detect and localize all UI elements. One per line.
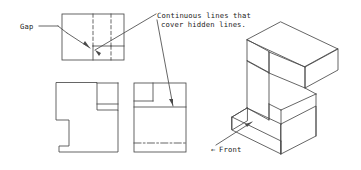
drawing-canvas: Gap Continuous lines that cover hidden l… xyxy=(0,0,361,170)
front-label: Front xyxy=(219,145,241,154)
continuous-lines-label-line2: cover hidden lines. xyxy=(161,20,246,29)
technical-drawing-sheet: Gap Continuous lines that cover hidden l… xyxy=(0,0,361,170)
front-arrow-glyph: ← xyxy=(211,145,216,154)
gap-label: Gap xyxy=(20,22,33,31)
continuous-lines-label-line1: Continuous lines that xyxy=(157,11,251,20)
